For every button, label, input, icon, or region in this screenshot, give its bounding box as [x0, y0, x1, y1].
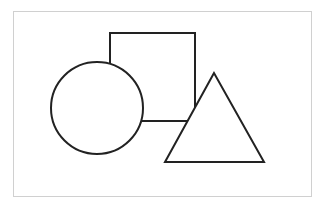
- shapes-diagram: [0, 0, 326, 206]
- circle-shape: [51, 62, 143, 154]
